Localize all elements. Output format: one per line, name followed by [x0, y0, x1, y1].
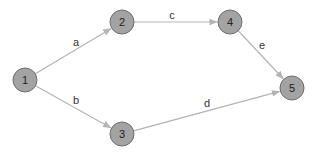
directed-graph: abcde 12345 [0, 0, 319, 159]
node-label: 3 [119, 128, 125, 140]
edge-label-d: d [204, 97, 210, 109]
node-label: 5 [289, 82, 295, 94]
node-5: 5 [280, 76, 304, 100]
edge-label-e: e [259, 39, 265, 51]
node-label: 4 [227, 16, 233, 28]
node-3: 3 [110, 122, 134, 146]
node-2: 2 [110, 10, 134, 34]
edge-label-a: a [73, 36, 80, 48]
edge-label-b: b [73, 94, 79, 106]
nodes-layer: 12345 [13, 10, 304, 146]
node-4: 4 [218, 10, 242, 34]
node-1: 1 [13, 68, 37, 92]
node-label: 2 [119, 16, 125, 28]
edge-e [238, 31, 283, 79]
graph-canvas: abcde 12345 [0, 0, 319, 159]
node-label: 1 [22, 74, 28, 86]
edge-b [35, 86, 110, 128]
edge-label-c: c [169, 9, 175, 21]
